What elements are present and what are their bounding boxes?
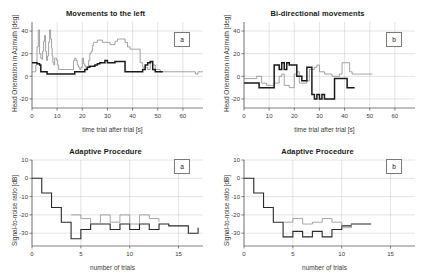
svg-text:-30: -30 xyxy=(19,230,28,236)
svg-text:20: 20 xyxy=(21,51,28,57)
panel-badge: a xyxy=(174,32,190,47)
panel-badge: b xyxy=(386,159,402,174)
svg-text:5: 5 xyxy=(291,251,295,257)
svg-text:0: 0 xyxy=(237,74,241,80)
svg-text:10: 10 xyxy=(54,113,61,119)
panel-badge-text: a xyxy=(180,36,184,43)
plot-area-top-right: 0102030405060-2002040 xyxy=(212,0,423,138)
panel-badge: b xyxy=(386,32,402,47)
svg-text:-20: -20 xyxy=(19,212,28,218)
svg-text:20: 20 xyxy=(291,113,298,119)
svg-text:-20: -20 xyxy=(231,212,240,218)
svg-text:0: 0 xyxy=(242,113,246,119)
panel-top-left: Movements to the left Head Orientation i… xyxy=(0,0,211,138)
figure-canvas: Movements to the left Head Orientation i… xyxy=(0,0,423,276)
panel-badge-text: b xyxy=(392,163,396,170)
svg-text:10: 10 xyxy=(338,251,345,257)
svg-text:60: 60 xyxy=(180,113,187,119)
svg-text:0: 0 xyxy=(25,175,29,181)
svg-text:20: 20 xyxy=(233,51,240,57)
svg-text:20: 20 xyxy=(79,113,86,119)
svg-text:15: 15 xyxy=(387,251,394,257)
svg-text:15: 15 xyxy=(175,251,182,257)
svg-text:40: 40 xyxy=(129,113,136,119)
svg-text:-10: -10 xyxy=(19,194,28,200)
plot-area-top-left: 0102030405060-2002040 xyxy=(0,0,211,138)
svg-text:0: 0 xyxy=(30,113,34,119)
panel-bottom-right: Adaptive Procedure Signal-to-noise ratio… xyxy=(212,138,423,276)
panel-top-right: Bi-directional movements Head Orientatio… xyxy=(212,0,423,138)
svg-text:-20: -20 xyxy=(19,96,28,102)
svg-text:10: 10 xyxy=(233,157,240,163)
svg-text:0: 0 xyxy=(30,251,34,257)
svg-text:0: 0 xyxy=(25,74,29,80)
panel-badge: a xyxy=(174,159,190,174)
svg-text:30: 30 xyxy=(104,113,111,119)
svg-text:30: 30 xyxy=(316,113,323,119)
panel-bottom-left: Adaptive Procedure Signal-to-noise ratio… xyxy=(0,138,211,276)
svg-text:10: 10 xyxy=(126,251,133,257)
panel-badge-text: a xyxy=(180,163,184,170)
svg-text:10: 10 xyxy=(266,113,273,119)
svg-text:60: 60 xyxy=(392,113,399,119)
svg-text:-10: -10 xyxy=(231,194,240,200)
svg-text:40: 40 xyxy=(233,28,240,34)
svg-text:10: 10 xyxy=(21,157,28,163)
svg-text:-30: -30 xyxy=(231,230,240,236)
svg-text:50: 50 xyxy=(154,113,161,119)
svg-text:0: 0 xyxy=(242,251,246,257)
panel-badge-text: b xyxy=(392,36,396,43)
svg-text:40: 40 xyxy=(21,28,28,34)
svg-text:0: 0 xyxy=(237,175,241,181)
svg-text:5: 5 xyxy=(79,251,83,257)
svg-text:-20: -20 xyxy=(231,96,240,102)
svg-text:40: 40 xyxy=(341,113,348,119)
svg-text:50: 50 xyxy=(366,113,373,119)
